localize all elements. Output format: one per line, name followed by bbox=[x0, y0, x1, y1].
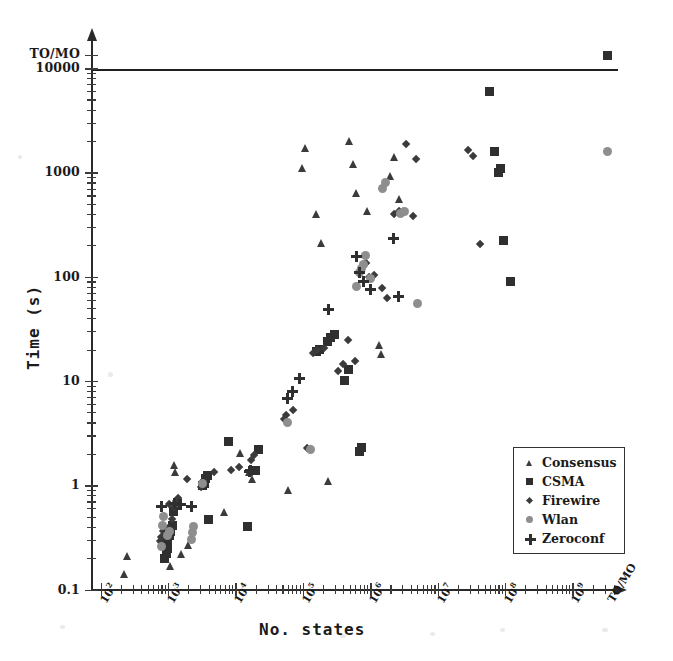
legend-item-wlan[interactable]: Wlan bbox=[521, 510, 615, 529]
triangle-marker-icon bbox=[521, 460, 537, 466]
data-point-wlan bbox=[165, 527, 174, 536]
data-point-csma bbox=[165, 531, 174, 540]
data-point-consensus bbox=[177, 550, 186, 558]
data-point-consensus bbox=[123, 552, 132, 560]
data-point-zeroconf bbox=[244, 466, 255, 477]
data-point-firewire bbox=[251, 452, 260, 461]
data-point-csma bbox=[163, 535, 172, 544]
legend-item-consensus[interactable]: Consensus bbox=[521, 453, 615, 472]
data-point-firewire bbox=[211, 469, 220, 478]
data-point-zeroconf bbox=[287, 386, 298, 397]
data-point-wlan bbox=[400, 207, 409, 216]
data-point-firewire bbox=[236, 464, 245, 473]
data-point-firewire bbox=[345, 337, 354, 346]
data-point-wlan bbox=[378, 184, 387, 193]
data-point-csma bbox=[315, 345, 324, 354]
data-point-csma bbox=[330, 330, 339, 339]
plus-marker-icon bbox=[521, 534, 537, 543]
data-point-wlan bbox=[413, 299, 422, 308]
data-point-wlan bbox=[158, 521, 167, 530]
data-point-csma bbox=[254, 445, 263, 454]
legend-label: Wlan bbox=[542, 512, 578, 527]
data-point-firewire bbox=[171, 504, 180, 513]
data-point-firewire bbox=[173, 498, 182, 507]
data-point-csma bbox=[160, 554, 169, 563]
data-point-firewire bbox=[283, 412, 292, 421]
data-point-csma bbox=[204, 515, 213, 524]
data-point-consensus bbox=[298, 164, 307, 172]
data-point-firewire bbox=[158, 534, 167, 543]
data-point-consensus bbox=[284, 486, 293, 494]
data-point-zeroconf bbox=[245, 465, 256, 476]
data-point-firewire bbox=[314, 347, 323, 356]
data-point-zeroconf bbox=[156, 501, 167, 512]
data-point-wlan bbox=[306, 445, 315, 454]
data-point-consensus bbox=[317, 239, 326, 247]
data-point-firewire bbox=[321, 345, 330, 354]
data-point-firewire bbox=[352, 358, 361, 367]
data-point-firewire bbox=[281, 416, 290, 425]
legend-item-zeroconf[interactable]: Zeroconf bbox=[521, 529, 615, 548]
diamond-marker-icon bbox=[521, 498, 537, 503]
data-point-firewire bbox=[163, 531, 172, 540]
data-point-consensus bbox=[352, 189, 361, 197]
data-point-wlan bbox=[352, 282, 361, 291]
data-point-consensus bbox=[171, 468, 180, 476]
data-point-csma bbox=[224, 437, 233, 446]
data-point-zeroconf bbox=[365, 284, 376, 295]
data-point-csma bbox=[357, 443, 366, 452]
data-point-wlan bbox=[198, 479, 207, 488]
data-point-csma bbox=[490, 147, 499, 156]
data-point-firewire bbox=[184, 476, 193, 485]
data-point-consensus bbox=[390, 153, 399, 161]
data-point-firewire bbox=[335, 368, 344, 377]
legend-item-firewire[interactable]: Firewire bbox=[521, 491, 615, 510]
data-point-firewire bbox=[310, 350, 319, 359]
data-point-firewire bbox=[410, 213, 419, 222]
data-point-csma bbox=[203, 471, 212, 480]
data-point-csma bbox=[499, 236, 508, 245]
data-point-consensus bbox=[386, 172, 395, 180]
data-point-firewire bbox=[175, 495, 184, 504]
data-point-firewire bbox=[413, 156, 422, 165]
data-point-consensus bbox=[120, 570, 129, 578]
data-point-wlan bbox=[396, 209, 405, 218]
data-point-zeroconf bbox=[393, 291, 404, 302]
data-point-consensus bbox=[184, 541, 193, 549]
data-point-wlan bbox=[381, 178, 390, 187]
data-point-firewire bbox=[371, 272, 380, 281]
data-point-csma bbox=[200, 479, 209, 488]
data-point-firewire bbox=[304, 445, 313, 454]
data-point-wlan bbox=[157, 542, 166, 551]
data-point-firewire bbox=[169, 516, 178, 525]
data-point-csma bbox=[251, 466, 260, 475]
data-point-consensus bbox=[160, 531, 169, 539]
data-point-zeroconf bbox=[323, 304, 334, 315]
data-point-csma bbox=[323, 337, 332, 346]
data-point-consensus bbox=[301, 144, 310, 152]
data-point-zeroconf bbox=[282, 393, 293, 404]
data-point-consensus bbox=[375, 341, 384, 349]
data-point-firewire bbox=[477, 241, 486, 250]
data-point-csma bbox=[169, 507, 178, 516]
data-point-csma bbox=[312, 347, 321, 356]
legend-label: Firewire bbox=[542, 493, 600, 508]
data-point-firewire bbox=[363, 260, 372, 269]
data-point-consensus bbox=[363, 207, 372, 215]
data-point-csma bbox=[198, 481, 207, 490]
data-point-firewire bbox=[198, 484, 207, 493]
data-point-consensus bbox=[324, 477, 333, 485]
data-point-consensus bbox=[248, 475, 257, 483]
data-point-csma bbox=[340, 376, 349, 385]
data-point-firewire bbox=[340, 361, 349, 370]
legend-item-csma[interactable]: CSMA bbox=[521, 472, 615, 491]
data-point-firewire bbox=[396, 208, 405, 217]
data-point-csma bbox=[162, 549, 171, 558]
data-point-firewire bbox=[403, 141, 412, 150]
data-point-wlan bbox=[159, 512, 168, 521]
data-point-consensus bbox=[170, 461, 179, 469]
data-point-firewire bbox=[165, 525, 174, 534]
data-point-csma bbox=[496, 164, 505, 173]
data-point-zeroconf bbox=[169, 498, 180, 509]
data-point-consensus bbox=[349, 160, 358, 168]
